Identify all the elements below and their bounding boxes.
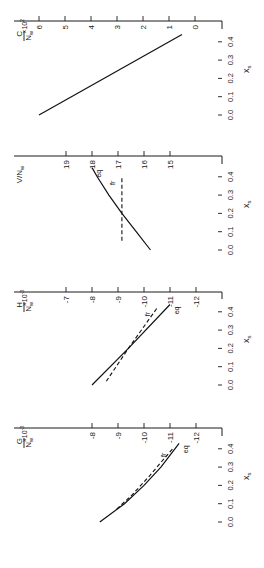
xs-tick-label: 0.3 — [226, 462, 235, 472]
value-tick-label: 4 — [87, 24, 96, 29]
xs-tick-label: 0.1 — [226, 226, 235, 236]
value-tick-label: 17 — [114, 159, 123, 168]
xs-tick-label: 0.4 — [226, 444, 235, 454]
xs-tick-label: 0.0 — [226, 380, 235, 390]
value-tick-label: -12 — [192, 431, 201, 443]
xs-axis-label: xs — [241, 201, 252, 209]
xs-axis-label: xs — [241, 336, 252, 344]
value-tick-label: 1 — [165, 24, 174, 29]
series-eq-line — [92, 168, 151, 250]
value-tick-label: 19 — [62, 159, 71, 168]
xs-tick-label: 0.4 — [226, 307, 235, 317]
value-tick-label: 3 — [113, 24, 122, 29]
xs-tick-label: 0.2 — [226, 73, 235, 83]
value-tick-label: -9 — [114, 431, 123, 439]
value-axis-label: V/Nw — [15, 166, 25, 183]
xs-tick-label: 0.0 — [226, 517, 235, 527]
value-tick-label: 2 — [139, 24, 148, 29]
xs-tick-label: 0.2 — [226, 208, 235, 218]
rotated-figure: -8-9-10-11-120.00.10.20.30.4xsGNw×10-3eq… — [0, 0, 264, 568]
panel-c: 65432100.00.10.20.30.4xsCNw×102 — [14, 16, 252, 120]
value-tick-label: -8 — [88, 431, 97, 439]
xs-tick-label: 0.1 — [226, 91, 235, 101]
xs-tick-label: 0.1 — [226, 361, 235, 371]
xs-tick-label: 0.3 — [226, 190, 235, 200]
value-tick-label: -9 — [114, 295, 123, 303]
xs-tick-label: 0.3 — [226, 55, 235, 65]
value-tick-label: -11 — [166, 295, 175, 307]
value-tick-label: 15 — [166, 159, 175, 168]
chart-canvas: -8-9-10-11-120.00.10.20.30.4xsGNw×10-3eq… — [0, 0, 264, 568]
panel-h: -7-8-9-10-11-120.00.10.20.30.4xsHNw×10-3… — [14, 287, 252, 390]
value-tick-label: -12 — [192, 295, 201, 307]
series-label-fr: fr — [160, 452, 167, 457]
series-label-fr: fr — [109, 180, 116, 185]
xs-tick-label: 0.1 — [226, 498, 235, 508]
xs-tick-label: 0.4 — [226, 37, 235, 47]
series-label-eq: eq — [173, 306, 181, 314]
value-tick-label: 5 — [61, 24, 70, 29]
xs-axis-label: xs — [241, 473, 252, 481]
series-label-eq: eq — [95, 170, 103, 178]
series-label-fr: fr — [144, 311, 151, 316]
xs-tick-label: 0.0 — [226, 110, 235, 120]
value-tick-label: 6 — [35, 24, 44, 29]
xs-tick-label: 0.3 — [226, 325, 235, 335]
value-tick-label: -10 — [140, 431, 149, 443]
value-tick-label: 16 — [140, 159, 149, 168]
series-eq-line — [92, 305, 170, 386]
xs-tick-label: 0.4 — [226, 172, 235, 182]
xs-tick-label: 0.2 — [226, 343, 235, 353]
panel-g: -8-9-10-11-120.00.10.20.30.4xsGNw×10-3eq… — [14, 423, 252, 527]
series-label-eq: eq — [182, 445, 190, 453]
series-eq-line — [39, 35, 182, 116]
value-tick-label: 0 — [191, 24, 200, 29]
value-tick-label: -10 — [140, 295, 149, 307]
xs-tick-label: 0.2 — [226, 480, 235, 490]
panel-v: 19181716150.00.10.20.30.4xsV/Nweqfr — [14, 151, 252, 255]
value-tick-label: -8 — [88, 295, 97, 303]
value-tick-label: -11 — [166, 431, 175, 443]
xs-axis-label: xs — [241, 66, 252, 74]
value-tick-label: -7 — [62, 295, 71, 303]
xs-tick-label: 0.0 — [226, 245, 235, 255]
